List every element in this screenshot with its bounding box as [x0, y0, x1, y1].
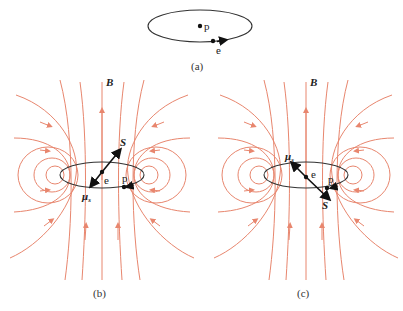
proton-label: p [328, 173, 334, 185]
panel-c: B e μs S p (c) [214, 76, 398, 300]
proton-label: p [204, 20, 210, 32]
moment-arrow-icon [292, 163, 306, 177]
spin-label: S [120, 136, 126, 148]
magnetic-field-lines [10, 80, 194, 280]
field-label-c: B [309, 76, 317, 88]
hydrogen-spin-diagram: p e (a) [0, 0, 403, 311]
caption-b: (b) [93, 287, 106, 300]
orbit-direction-arrow-icon [217, 40, 226, 42]
proton-dot [325, 186, 329, 190]
caption-c: (c) [297, 287, 310, 300]
field-label-b: B [105, 76, 113, 88]
magnetic-field-lines [214, 80, 398, 280]
electron-label: e [311, 168, 316, 180]
electron-label: e [216, 44, 221, 56]
proton-label: p [122, 172, 128, 184]
moment-label: μs [81, 190, 91, 204]
spin-arrow-icon [102, 150, 120, 172]
panel-b: B e S μs p (b) [10, 76, 194, 300]
moment-label: μs [284, 150, 294, 164]
panel-a: p e (a) [148, 10, 252, 73]
proton-dot [122, 185, 126, 189]
electron-dot [304, 175, 308, 179]
electron-label: e [104, 174, 109, 186]
caption-a: (a) [191, 60, 204, 73]
spin-label: S [322, 199, 328, 211]
electron-dot [211, 39, 215, 43]
proton-dot [198, 24, 202, 28]
moment-arrow-icon [91, 172, 102, 186]
